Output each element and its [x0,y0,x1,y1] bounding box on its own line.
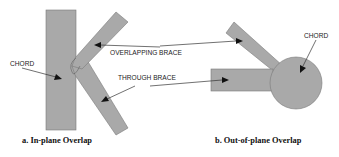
panel-a-caption: a. In-plane Overlap [22,136,92,145]
panel-a-in-plane: CHORD OVERLAPPING BRACE THROUGH BRACE a.… [10,10,182,145]
chord-member [46,10,76,130]
overlapping-brace-leader-line [100,45,160,47]
overlap-joint-diagram: CHORD OVERLAPPING BRACE THROUGH BRACE a.… [0,0,339,157]
overlapping-brace-member-b [226,22,283,74]
chord-label-b: CHORD [304,32,328,39]
panel-b-out-of-plane: CHORD b. Out-of-plane Overlap [150,22,328,145]
overlapping-brace-member [72,12,128,69]
chord-label: CHORD [10,60,34,67]
through-brace-member [72,60,128,135]
overlapping-brace-label: OVERLAPPING BRACE [110,49,182,56]
panel-b-caption: b. Out-of-plane Overlap [215,136,302,145]
through-brace-leader-line [107,86,135,99]
chord-member-b [270,57,322,109]
overlapping-brace-leader-line-b [160,41,236,46]
through-brace-label: THROUGH BRACE [118,74,176,81]
